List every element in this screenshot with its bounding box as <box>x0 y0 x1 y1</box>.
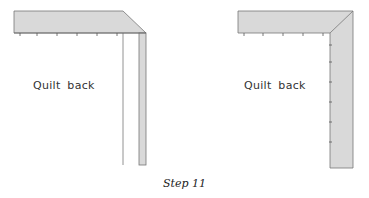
step-caption: Step 11 <box>0 177 369 190</box>
right-quilt-back-label: Quilt back <box>244 79 306 92</box>
left-quilt-back-label: Quilt back <box>33 79 95 92</box>
diagram-canvas <box>0 0 369 198</box>
